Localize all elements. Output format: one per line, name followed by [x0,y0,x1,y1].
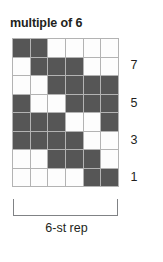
row-number-label: 3 [119,134,149,147]
stitch-cell [101,39,118,57]
stitch-cell [13,58,30,76]
stitch-cell [31,113,48,131]
stitch-cell [66,76,83,94]
stitch-cell [101,169,118,187]
stitch-cell [31,169,48,187]
stitch-cell [48,39,65,57]
stitch-cell [101,58,118,76]
stitch-cell [13,76,30,94]
stitch-cell [48,150,65,168]
stitch-cell [84,95,101,113]
stitch-cell [31,76,48,94]
stitch-cell [101,150,118,168]
stitch-cell [13,169,30,187]
stitch-cell [31,39,48,57]
stitch-cell [48,95,65,113]
stitch-cell [66,39,83,57]
repeat-bracket [13,199,118,216]
stitch-cell [13,113,30,131]
stitch-cell [48,76,65,94]
stitch-cell [31,95,48,113]
stitch-cell [84,39,101,57]
stitch-grid [12,38,119,187]
stitch-cell [101,76,118,94]
stitch-cell [84,150,101,168]
stitch-cell [48,113,65,131]
stitch-cell [48,132,65,150]
stitch-cell [101,113,118,131]
stitch-cell [84,113,101,131]
stitch-cell [84,58,101,76]
stitch-cell [13,132,30,150]
stitch-cell [66,113,83,131]
page-title: multiple of 6 [10,17,82,30]
repeat-caption: 6-st rep [0,222,133,235]
stitch-cell [101,95,118,113]
row-number-label: 1 [119,171,149,184]
stitch-cell [31,58,48,76]
row-number-label: 7 [119,59,149,72]
stitch-cell [31,150,48,168]
stitch-cell [84,132,101,150]
stitch-cell [13,150,30,168]
stitch-cell [13,39,30,57]
stitch-cell [84,76,101,94]
stitch-cell [31,132,48,150]
stitch-cell [13,95,30,113]
stitch-cell [66,132,83,150]
row-number-label: 5 [119,97,149,110]
stitch-chart [12,38,119,187]
stitch-cell [84,169,101,187]
stitch-cell [48,169,65,187]
stitch-cell [48,58,65,76]
stitch-cell [66,150,83,168]
row-number-labels: 7531 [119,38,163,187]
stitch-cell [66,169,83,187]
stitch-cell [101,132,118,150]
stitch-cell [66,95,83,113]
stitch-cell [66,58,83,76]
